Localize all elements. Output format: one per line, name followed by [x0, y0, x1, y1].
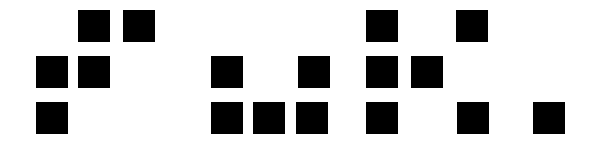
block-r1-c4: [456, 10, 488, 42]
block-r3-c6: [457, 102, 489, 134]
block-r3-c1: [36, 102, 68, 134]
block-r2-c5: [366, 56, 398, 88]
block-r1-c3: [366, 10, 398, 42]
block-r2-c1: [36, 56, 68, 88]
block-r3-c2: [211, 102, 243, 134]
block-r1-c1: [78, 10, 110, 42]
block-r2-c2: [78, 56, 110, 88]
block-r3-c7: [533, 102, 565, 134]
block-r3-c4: [296, 102, 328, 134]
block-r1-c2: [123, 10, 155, 42]
block-r3-c3: [253, 102, 285, 134]
block-r2-c6: [411, 56, 443, 88]
block-r2-c4: [298, 56, 330, 88]
block-r3-c5: [366, 102, 398, 134]
block-pattern-canvas: [0, 0, 595, 144]
block-r2-c3: [211, 56, 243, 88]
